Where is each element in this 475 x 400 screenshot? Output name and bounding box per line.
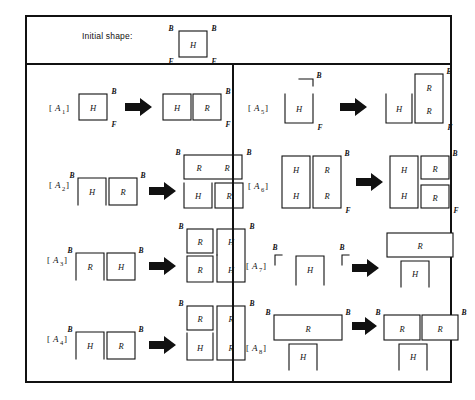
rule-tag-base-A8: A <box>251 343 258 353</box>
cell-label-R: R <box>425 106 432 116</box>
cell-label-R: R <box>431 164 438 174</box>
cell-label-R: R <box>196 237 203 247</box>
cell-label-H: H <box>292 191 300 201</box>
rule-tag-base-A4: A <box>52 334 59 344</box>
corner-label-B: B <box>374 308 380 317</box>
rule-tag-bracket-close-A5: ] <box>265 103 268 113</box>
rule-lhs-A8: R H B B <box>264 308 350 370</box>
corner-label-F: F <box>447 123 452 132</box>
initial-shape-label: Initial shape: <box>82 31 133 41</box>
rule-row-A1: [ A 1 ] H B F <box>27 65 232 143</box>
rule-tag-sub-A1: 1 <box>62 108 65 115</box>
corner-label-F: F <box>345 206 350 215</box>
corner-label-F: F <box>225 120 230 129</box>
corner-label-B: B <box>264 308 270 317</box>
cell-label-R: R <box>196 265 203 275</box>
rule-tag-sub-A8: 8 <box>259 348 262 355</box>
corner-label-B: B <box>137 246 143 255</box>
initial-shape-band: Initial shape: H B B F F <box>27 17 450 65</box>
cell-label-R: R <box>431 193 438 203</box>
corner-label-B: B <box>344 308 350 317</box>
cell-label-R: R <box>425 83 432 93</box>
rule-tag-sub-A2: 2 <box>62 185 65 192</box>
cell-label-H: H <box>89 103 97 113</box>
cell-label-R: R <box>304 324 311 334</box>
rewrite-arrow-A4 <box>149 336 176 354</box>
rule-tag-bracket-close-A8: ] <box>263 343 266 353</box>
corner-label-B: B <box>271 243 277 252</box>
rule-tag-bracket-close-A4: ] <box>64 334 67 344</box>
cell-label-H: H <box>395 104 403 114</box>
cell-label-H: H <box>117 262 125 272</box>
rule-row-A8: [ A 8 ] R H B B <box>234 301 450 381</box>
rule-lhs-A1: H B F <box>79 87 117 129</box>
rule-rhs-A6: H H R R B F <box>390 149 459 215</box>
cell-label-H: H <box>400 165 408 175</box>
rule-row-A6: [ A 6 ] H H R R B F <box>234 143 450 223</box>
cell-label-R: R <box>436 324 443 334</box>
corner-label-B: B <box>137 325 143 334</box>
cell-label-R: R <box>86 262 93 272</box>
cell-label-H: H <box>194 191 202 201</box>
cell-label-H: H <box>88 187 96 197</box>
corner-label-B: B <box>224 87 230 96</box>
cell-label-H: H <box>295 104 303 114</box>
corner-label-B: B <box>66 246 72 255</box>
rules-body: [ A 1 ] H B F <box>27 65 450 381</box>
cell-label-H: H <box>189 40 197 50</box>
rule-tag-base-A7: A <box>251 261 258 271</box>
rule-tag-bracket-close-A6: ] <box>265 181 268 191</box>
rewrite-arrow-A7: B <box>338 243 379 277</box>
rewrite-arrow-A3 <box>149 257 176 275</box>
rule-tag-bracket-open-A5: [ <box>248 103 251 113</box>
rule-tag-bracket-close-A1: ] <box>66 103 69 113</box>
rule-lhs-A6: H H R R B F <box>282 149 351 215</box>
corner-label-B: B <box>139 171 145 180</box>
cell-label-R: R <box>223 163 230 173</box>
rule-lhs-A7: B H <box>271 243 324 285</box>
corner-label-B: B <box>343 149 349 158</box>
corner-label-top-left: B <box>167 24 173 33</box>
rule-tag-bracket-open-A3: [ <box>47 255 50 265</box>
rule-tag-bracket-close-A7: ] <box>263 261 266 271</box>
rule-lhs-A2: H R B B <box>68 171 145 205</box>
cell-label-H: H <box>409 352 417 362</box>
rule-tag-base-A6: A <box>253 181 260 191</box>
cell-label-H: H <box>306 265 314 275</box>
corner-label-B: B <box>445 67 451 76</box>
cell-label-R: R <box>416 241 423 251</box>
rule-tag-sub-A5: 5 <box>261 108 264 115</box>
rule-rhs-A5: H R R B F <box>386 67 453 132</box>
rule-rhs-A1: H R B F <box>163 87 231 129</box>
corner-label-B: B <box>110 87 116 96</box>
rule-tag-bracket-open-A1: [ <box>49 103 52 113</box>
cell-label-R: R <box>323 191 330 201</box>
initial-shape-diagram: H B B F F <box>157 19 247 65</box>
rule-row-A3: [ A 3 ] R H B B <box>27 218 232 296</box>
rewrite-arrow-A2 <box>149 182 176 200</box>
corner-label-B: B <box>177 222 183 231</box>
corner-label-top-right: B <box>210 24 216 33</box>
rule-tag-bracket-close-A3: ] <box>64 255 67 265</box>
rule-tag-bracket-open-A8: [ <box>246 343 249 353</box>
corner-label-F: F <box>453 206 458 215</box>
corner-label-B: B <box>174 148 180 157</box>
corner-label-F: F <box>111 120 116 129</box>
cell-label-H: H <box>292 165 300 175</box>
rewrite-arrow-A6 <box>356 173 383 191</box>
rule-tag-bracket-open-A6: [ <box>248 181 251 191</box>
rule-tag-base-A2: A <box>54 180 61 190</box>
cell-label-H: H <box>196 343 204 353</box>
rule-rhs-A8: R R H B B <box>374 308 466 370</box>
rule-lhs-A3: R H B B <box>66 246 143 280</box>
cell-label-R: R <box>323 165 330 175</box>
rules-column-right: [ A 5 ] H B F <box>232 65 450 381</box>
corner-label-B: B <box>451 149 457 158</box>
corner-label-B: B <box>68 171 74 180</box>
corner-label-B: B <box>460 308 466 317</box>
corner-label-B: B <box>177 299 183 308</box>
cell-label-R: R <box>398 324 405 334</box>
cell-label-H: H <box>173 103 181 113</box>
rule-lhs-A5: H B F <box>285 71 323 132</box>
rewrite-arrow-A5 <box>340 98 367 116</box>
